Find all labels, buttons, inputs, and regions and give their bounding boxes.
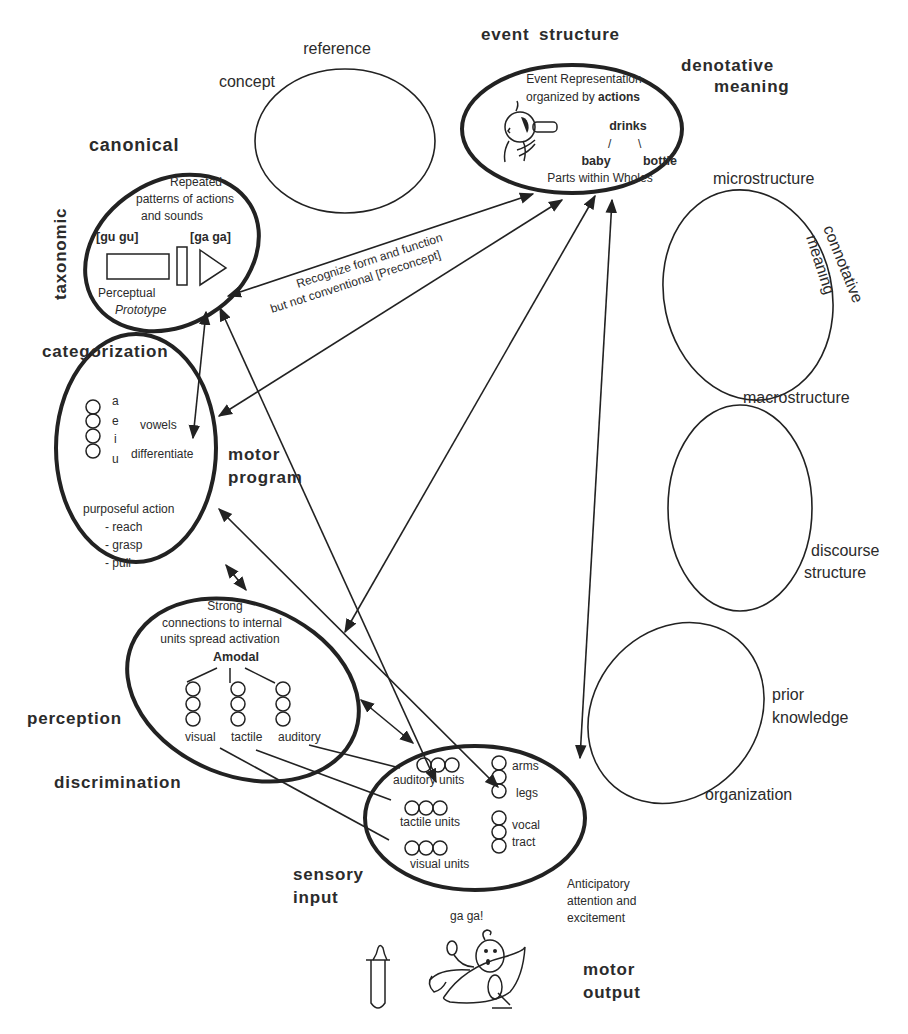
label-denotative: denotative xyxy=(681,56,774,75)
action-pull: - pull xyxy=(105,556,131,570)
event-verb: drinks xyxy=(609,119,647,133)
label-anticipatory-2: attention and xyxy=(567,894,636,908)
label-denotative-meaning: meaning xyxy=(714,77,790,96)
label-taxonomic: taxonomic xyxy=(51,208,70,300)
action-grasp: - grasp xyxy=(105,538,143,552)
vowels-label: vowels xyxy=(140,418,177,432)
label-motor-output-2: output xyxy=(583,983,641,1002)
label-discrimination: discrimination xyxy=(54,773,181,792)
auditory-units: auditory units xyxy=(393,773,464,787)
label-prior-knowledge: knowledge xyxy=(772,709,849,726)
canonical-line2: patterns of actions xyxy=(136,192,234,206)
label-anticipatory: Anticipatory xyxy=(567,877,630,891)
label-organization: organization xyxy=(705,786,792,803)
tactile-units: tactile units xyxy=(400,815,460,829)
label-sensory: sensory xyxy=(293,865,364,884)
sound-gu-gu: [gu gu] xyxy=(96,230,138,244)
label-categorization: categorization xyxy=(42,342,168,361)
label-canonical: canonical xyxy=(89,135,179,155)
body-legs: legs xyxy=(516,786,538,800)
perception-line2: connections to internal xyxy=(162,616,282,630)
visual-units: visual units xyxy=(410,857,469,871)
label-microstructure: microstructure xyxy=(713,170,814,187)
perception-line1: Strong xyxy=(207,599,242,613)
event-slash-right: \ xyxy=(638,137,642,151)
action-title: purposeful action xyxy=(83,502,174,516)
label-concept: concept xyxy=(219,73,276,90)
concept-ellipse xyxy=(255,69,435,213)
sound-ga-ga: [ga ga] xyxy=(190,230,231,244)
body-arms: arms xyxy=(512,759,539,773)
event-line2: organized by actions xyxy=(526,90,640,104)
vowel-u: u xyxy=(112,452,119,466)
perception-line3: units spread activation xyxy=(160,632,279,646)
modality-tree-icon xyxy=(186,668,290,726)
vowel-i: i xyxy=(114,432,117,446)
label-prior: prior xyxy=(772,686,805,703)
vowel-e: e xyxy=(112,414,119,428)
event-footer: Parts within Wholes xyxy=(547,171,652,185)
canonical-line1: Repeated xyxy=(170,175,222,189)
label-anticipatory-3: excitement xyxy=(567,911,626,925)
baby-drinking-icon xyxy=(505,101,558,162)
label-ga-ga: ga ga! xyxy=(450,909,483,923)
label-reference: reference xyxy=(303,40,371,57)
label-perception: perception xyxy=(27,709,122,728)
label-discourse-structure: structure xyxy=(804,564,866,581)
baby-reclining-icon xyxy=(429,930,525,1008)
amodal-hub: Amodal xyxy=(213,650,259,664)
label-event-structure: event structure xyxy=(481,25,620,44)
sensory-units-icon xyxy=(405,756,506,855)
label-sensory-input: input xyxy=(293,888,339,907)
modality-tactile: tactile xyxy=(231,730,263,744)
label-motor-program-2: program xyxy=(228,468,303,487)
canonical-caption1: Perceptual xyxy=(98,286,155,300)
prototype-shapes-icon xyxy=(107,247,226,285)
diagram-canvas: reference concept event structure denota… xyxy=(0,0,908,1034)
discourse-ellipse xyxy=(668,405,812,611)
action-reach: - reach xyxy=(105,520,142,534)
differentiate-label: differentiate xyxy=(131,447,194,461)
canonical-line3: and sounds xyxy=(141,209,203,223)
modality-visual: visual xyxy=(185,730,216,744)
label-macrostructure: macrostructure xyxy=(743,389,850,406)
vowel-units-icon xyxy=(86,400,100,458)
body-vocal: vocal xyxy=(512,818,540,832)
event-agent: baby xyxy=(581,154,610,168)
bottle-icon xyxy=(366,946,390,1009)
event-line1: Event Representation xyxy=(526,72,641,86)
event-object: bottle xyxy=(643,154,677,168)
modality-auditory: auditory xyxy=(278,730,321,744)
body-tract: tract xyxy=(512,835,536,849)
label-motor-output: motor xyxy=(583,960,635,979)
event-slash-left: / xyxy=(608,137,612,151)
label-motor-program: motor xyxy=(228,445,280,464)
label-discourse: discourse xyxy=(811,542,880,559)
vowel-a: a xyxy=(112,394,119,408)
connotative-ellipse xyxy=(644,174,852,416)
canonical-caption2: Prototype xyxy=(115,303,167,317)
